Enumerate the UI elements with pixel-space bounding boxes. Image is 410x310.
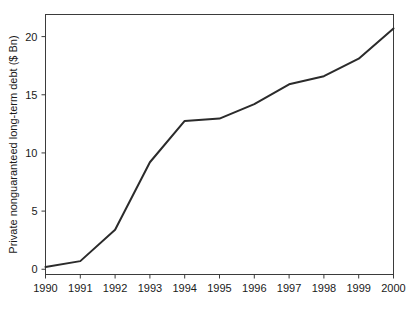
line-chart: 05101520 1990199119921993199419951996199… [0,0,410,310]
chart-figure: 05101520 1990199119921993199419951996199… [0,0,410,310]
x-tick-label: 1997 [277,282,301,294]
x-tick-label: 1996 [242,282,266,294]
x-tick-label: 1990 [33,282,57,294]
x-tick-label: 1999 [346,282,370,294]
x-tick-label: 1995 [207,282,231,294]
x-tick-label: 1998 [312,282,336,294]
y-axis-title: Private nonguaranteed long-term debt ($ … [7,35,19,253]
y-tick-label: 0 [31,263,37,275]
y-tick-label: 15 [25,89,37,101]
x-tick-label: 1991 [68,282,92,294]
x-tick-label: 1994 [172,282,196,294]
x-tick-label: 2000 [381,282,405,294]
y-tick-label: 5 [31,205,37,217]
x-tick-label: 1993 [138,282,162,294]
x-tick-label: 1992 [103,282,127,294]
y-tick-label: 20 [25,31,37,43]
y-tick-label: 10 [25,147,37,159]
